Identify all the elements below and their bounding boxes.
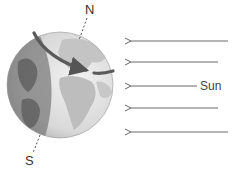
sun-label: Sun	[200, 80, 221, 92]
earth-globe	[0, 20, 113, 150]
south-axis-line	[33, 135, 40, 153]
south-label: S	[25, 154, 34, 167]
north-label: N	[85, 3, 94, 16]
